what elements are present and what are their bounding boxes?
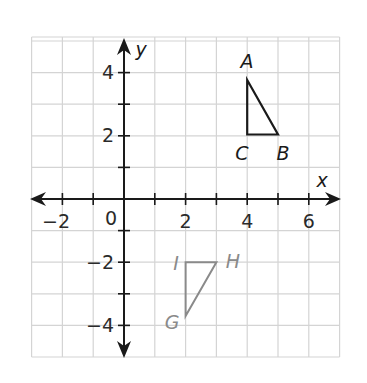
- x-tick-label-2: 2: [180, 210, 192, 232]
- coordinate-plane: −2 0 2 4 6 4 2 −2 −4 x y A C B I H G: [0, 0, 367, 383]
- point-label-h: H: [226, 250, 240, 272]
- triangle-abc: [247, 80, 278, 135]
- y-axis-label: y: [134, 38, 147, 60]
- y-tick-label-4: 4: [102, 61, 114, 83]
- triangle-ghi: [186, 262, 217, 316]
- x-tick-label-neg2: −2: [42, 210, 70, 232]
- x-axis-label: x: [315, 169, 328, 191]
- y-tick-label-neg4: −4: [86, 314, 114, 336]
- point-label-i: I: [173, 252, 179, 274]
- point-label-a: A: [239, 50, 254, 72]
- x-tick-label-4: 4: [241, 210, 253, 232]
- y-tick-label-neg2: −2: [86, 251, 114, 273]
- x-tick-label-6: 6: [303, 210, 315, 232]
- point-label-c: C: [235, 142, 249, 164]
- origin-label: 0: [105, 207, 117, 229]
- y-tick-label-2: 2: [102, 124, 114, 146]
- point-label-g: G: [165, 311, 180, 333]
- point-label-b: B: [276, 142, 289, 164]
